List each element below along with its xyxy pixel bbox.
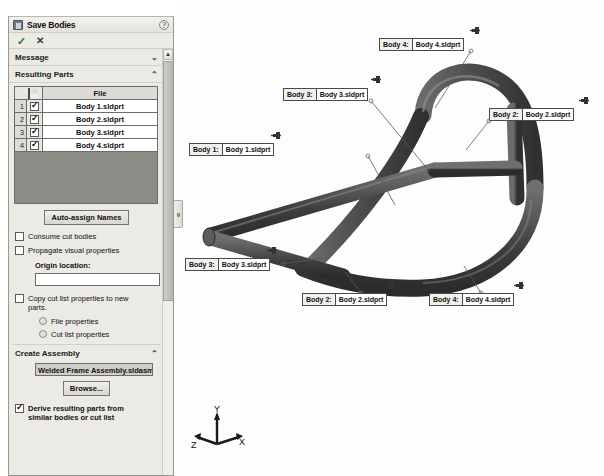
callout-file-name[interactable]: Body 2.sldprt xyxy=(523,109,574,120)
graphics-area[interactable]: Body 4:Body 4.sldprtBody 3:Body 3.sldprt… xyxy=(183,0,604,476)
part-document-icon xyxy=(13,20,23,30)
coordinate-triad-icon: Y X Z xyxy=(191,404,247,460)
table-row[interactable]: 4Body 4.sldprt xyxy=(15,139,158,152)
row-save-checkbox[interactable] xyxy=(30,141,39,150)
callout-body-label: Body 1: xyxy=(190,144,223,155)
consume-cut-bodies-checkbox[interactable] xyxy=(15,232,24,241)
resulting-parts-table[interactable]: File 1Body 1.sldprt2Body 2.sldprt3Body 3… xyxy=(14,86,158,152)
propagate-visual-properties-checkbox[interactable] xyxy=(15,246,24,255)
copy-cut-list-properties-checkbox[interactable] xyxy=(15,294,24,303)
row-file-name[interactable]: Body 3.sldprt xyxy=(43,126,158,139)
save-bodies-property-manager: Save Bodies ? ✓ ✕ Message ⌄ Resulting Pa… xyxy=(8,16,174,476)
callout-file-name[interactable]: Body 3.sldprt xyxy=(317,89,368,100)
file-properties-radio-row[interactable]: File properties xyxy=(9,312,164,326)
row-number: 2 xyxy=(15,113,27,126)
origin-location-label: Origin location: xyxy=(35,261,164,270)
row-save-checkbox-cell[interactable] xyxy=(27,113,43,126)
chevron-up-icon[interactable]: ⌃ xyxy=(151,70,158,79)
help-icon[interactable]: ? xyxy=(159,20,169,30)
derive-resulting-parts-checkbox[interactable] xyxy=(15,404,24,413)
callout-body-label: Body 4: xyxy=(430,294,463,305)
property-manager-content: Message ⌄ Resulting Parts ⌃ File xyxy=(9,49,164,422)
browse-row: Browse... xyxy=(9,376,164,396)
body-callout[interactable]: Body 3:Body 3.sldprt xyxy=(185,258,270,271)
chevron-down-icon[interactable]: ⌄ xyxy=(151,53,158,62)
scrollbar-thumb[interactable] xyxy=(163,61,174,301)
file-properties-label: File properties xyxy=(51,317,99,326)
ok-button[interactable]: ✓ xyxy=(17,36,26,46)
tube-body-2-post xyxy=(514,110,517,198)
row-save-checkbox-cell[interactable] xyxy=(27,139,43,152)
consume-cut-bodies-label: Consume cut bodies xyxy=(28,232,96,241)
table-row[interactable]: 2Body 2.sldprt xyxy=(15,113,158,126)
section-label-resulting-parts: Resulting Parts xyxy=(15,70,74,79)
section-header-resulting-parts[interactable]: Resulting Parts ⌃ xyxy=(9,66,164,83)
section-header-create-assembly[interactable]: Create Assembly ⌃ xyxy=(9,345,164,361)
triad-label-x: X xyxy=(239,437,245,447)
body-callout[interactable]: Body 4:Body 4.sldprt xyxy=(429,293,514,306)
callout-file-name[interactable]: Body 1.sldprt xyxy=(223,144,274,155)
pushpin-icon[interactable] xyxy=(271,131,282,140)
cut-list-properties-radio-row[interactable]: Cut list properties xyxy=(9,326,164,339)
column-header-file[interactable]: File xyxy=(43,87,158,100)
body-callout[interactable]: Body 2:Body 2.sldprt xyxy=(489,108,574,121)
browse-button[interactable]: Browse... xyxy=(63,381,110,396)
callout-file-name[interactable]: Body 2.sldprt xyxy=(336,294,387,305)
pushpin-icon[interactable] xyxy=(470,26,481,35)
assembly-name-input[interactable]: Welded Frame Assembly.sldasm xyxy=(35,363,153,376)
body-callout[interactable]: Body 3:Body 3.sldprt xyxy=(283,88,368,101)
derive-resulting-parts-label: Derive resulting parts from similar bodi… xyxy=(28,404,148,422)
propagate-visual-properties-row[interactable]: Propagate visual properties xyxy=(9,241,164,255)
consume-cut-bodies-row[interactable]: Consume cut bodies xyxy=(9,225,164,241)
table-row[interactable]: 3Body 3.sldprt xyxy=(15,126,158,139)
cut-list-properties-radio[interactable] xyxy=(39,330,47,338)
callout-body-label: Body 2: xyxy=(303,294,336,305)
row-file-name[interactable]: Body 4.sldprt xyxy=(43,139,158,152)
row-save-checkbox-cell[interactable] xyxy=(27,126,43,139)
callout-body-label: Body 3: xyxy=(186,259,219,270)
table-row[interactable]: 1Body 1.sldprt xyxy=(15,100,158,113)
origin-location-input[interactable] xyxy=(35,273,160,286)
callout-file-name[interactable]: Body 4.sldprt xyxy=(413,39,464,50)
row-save-checkbox[interactable] xyxy=(30,102,39,111)
property-manager-body: Message ⌄ Resulting Parts ⌃ File xyxy=(9,49,173,476)
cut-list-properties-label: Cut list properties xyxy=(51,330,109,339)
table-header-row: File xyxy=(15,87,158,100)
auto-assign-names-row: Auto-assign Names xyxy=(9,204,164,225)
chevron-up-icon-assembly[interactable]: ⌃ xyxy=(151,349,158,358)
copy-cut-list-properties-row[interactable]: Copy cut list properties to new parts. xyxy=(9,286,164,312)
row-number: 1 xyxy=(15,100,27,113)
scroll-up-arrow-icon[interactable]: ▲ xyxy=(163,49,173,60)
row-save-checkbox[interactable] xyxy=(30,128,39,137)
page-title: Save Bodies xyxy=(27,20,75,30)
property-manager-scrollbar[interactable]: ▲ xyxy=(162,49,173,476)
auto-assign-names-button[interactable]: Auto-assign Names xyxy=(44,210,128,225)
panel-splitter-handle[interactable] xyxy=(174,200,183,228)
body-callout[interactable]: Body 2:Body 2.sldprt xyxy=(302,293,387,306)
cancel-button[interactable]: ✕ xyxy=(36,36,44,46)
pushpin-icon[interactable] xyxy=(267,246,278,255)
callout-file-name[interactable]: Body 4.sldprt xyxy=(463,294,514,305)
copy-cut-list-properties-label: Copy cut list properties to new parts. xyxy=(28,294,146,312)
triad-label-z: Z xyxy=(191,440,197,450)
body-callout[interactable]: Body 1:Body 1.sldprt xyxy=(189,143,274,156)
tube-end-cap xyxy=(203,228,215,246)
pushpin-icon[interactable] xyxy=(579,96,590,105)
section-header-message[interactable]: Message ⌄ xyxy=(9,49,164,66)
tube-highlight-2 xyxy=(215,167,431,232)
pushpin-icon[interactable] xyxy=(384,281,395,290)
row-file-name[interactable]: Body 2.sldprt xyxy=(43,113,158,126)
body-callout[interactable]: Body 4:Body 4.sldprt xyxy=(379,38,464,51)
callout-file-name[interactable]: Body 3.sldprt xyxy=(219,259,270,270)
column-header-save[interactable] xyxy=(15,87,43,100)
row-save-checkbox-cell[interactable] xyxy=(27,100,43,113)
derive-resulting-parts-row[interactable]: Derive resulting parts from similar bodi… xyxy=(9,396,164,422)
assembly-name-row: Welded Frame Assembly.sldasm xyxy=(9,361,164,376)
pushpin-icon[interactable] xyxy=(371,75,382,84)
pushpin-icon[interactable] xyxy=(514,281,525,290)
row-number: 3 xyxy=(15,126,27,139)
file-properties-radio[interactable] xyxy=(39,317,47,325)
callout-body-label: Body 3: xyxy=(284,89,317,100)
row-save-checkbox[interactable] xyxy=(30,115,39,124)
row-file-name[interactable]: Body 1.sldprt xyxy=(43,100,158,113)
